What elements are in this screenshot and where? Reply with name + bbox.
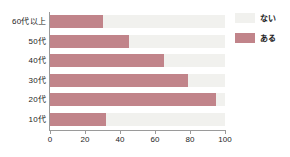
bar-segment-aru: [50, 113, 106, 126]
legend-item: ない: [235, 12, 290, 23]
y-axis-tick-label: 50代: [29, 35, 47, 48]
x-axis-tick-label: 0: [48, 135, 52, 144]
none-swatch: [235, 13, 255, 23]
legend-label: ある: [260, 32, 276, 43]
x-axis-tick-mark: [120, 131, 121, 134]
legend-label: ない: [260, 12, 276, 23]
chart-legend: ないある: [235, 12, 290, 52]
y-axis-tick-label: 40代: [29, 54, 47, 67]
bar-row: [50, 15, 225, 28]
y-axis-tick-label: 30代: [29, 74, 47, 87]
x-axis-tick-label: 20: [81, 135, 90, 144]
bar-segment-aru: [50, 54, 164, 67]
x-axis-tick-mark: [225, 131, 226, 134]
x-axis-tick-label: 80: [186, 135, 195, 144]
x-axis-tick-mark: [155, 131, 156, 134]
bar-segment-aru: [50, 74, 188, 87]
plot-area: [50, 12, 225, 130]
bar-row: [50, 113, 225, 126]
legend-item: ある: [235, 32, 290, 43]
bar-row: [50, 93, 225, 106]
y-axis-tick-label: 10代: [29, 113, 47, 126]
bar-row: [50, 74, 225, 87]
have-swatch: [235, 33, 255, 43]
y-axis-tick-label: 60代以上: [12, 15, 46, 28]
bar-segment-aru: [50, 93, 216, 106]
x-axis-tick-mark: [50, 131, 51, 134]
x-axis-line: [49, 130, 226, 131]
horizontal-bar-chart: 60代以上50代40代30代20代10代 020406080100 ないある: [0, 0, 290, 157]
x-axis-tick-mark: [190, 131, 191, 134]
bar-row: [50, 54, 225, 67]
bar-row: [50, 35, 225, 48]
y-axis-tick-label: 20代: [29, 93, 47, 106]
x-axis-tick-label: 100: [218, 135, 231, 144]
x-axis-tick-label: 60: [151, 135, 160, 144]
x-axis-tick-label: 40: [116, 135, 125, 144]
bar-segment-aru: [50, 15, 103, 28]
x-axis-tick-mark: [85, 131, 86, 134]
bar-segment-aru: [50, 35, 129, 48]
